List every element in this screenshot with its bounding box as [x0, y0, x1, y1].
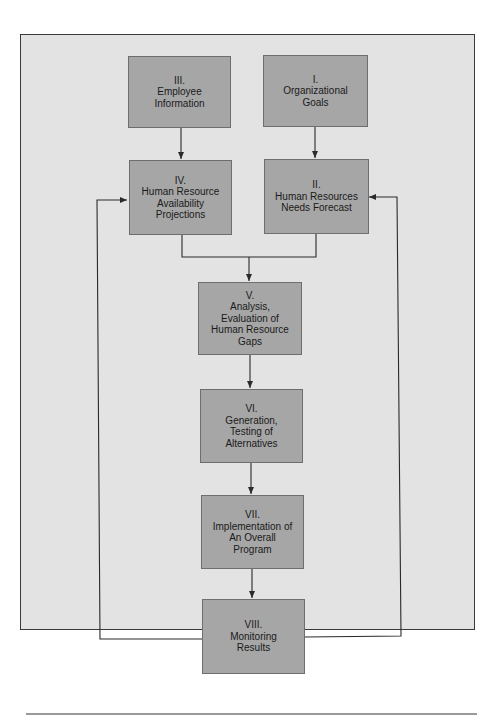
box-label-line: Evaluation of: [221, 313, 279, 325]
box-label-line: Monitoring: [230, 631, 277, 643]
box-label-line: Employee: [157, 86, 201, 98]
box-analysis-evaluation-gaps: V. Analysis, Evaluation of Human Resourc…: [198, 282, 302, 355]
box-numeral: V.: [246, 290, 255, 302]
box-generation-testing-alternatives: VI. Generation, Testing of Alternatives: [200, 389, 303, 463]
box-label-line: Human Resource: [142, 186, 220, 198]
box-label-line: Generation,: [225, 415, 277, 427]
box-numeral: IV.: [175, 175, 186, 187]
box-label-line: Gaps: [238, 336, 262, 348]
box-label-line: Needs Forecast: [281, 202, 352, 214]
box-label-line: Goals: [302, 97, 328, 109]
box-label-line: Implementation of: [213, 521, 293, 533]
box-label-line: Human Resources: [275, 191, 358, 203]
box-label-line: Analysis,: [230, 301, 270, 313]
box-label-line: An Overall: [229, 532, 276, 544]
box-hr-availability-projections: IV. Human Resource Availability Projecti…: [129, 160, 232, 235]
box-label-line: Information: [154, 98, 204, 110]
box-numeral: VII.: [245, 509, 260, 521]
box-label-line: Results: [237, 642, 270, 654]
box-organizational-goals: I. Organizational Goals: [263, 55, 368, 127]
box-numeral: VI.: [245, 403, 257, 415]
box-numeral: III.: [174, 75, 185, 87]
box-label-line: Program: [233, 544, 271, 556]
box-numeral: II.: [312, 179, 320, 191]
box-employee-information: III. Employee Information: [128, 56, 231, 128]
box-numeral: I.: [313, 74, 319, 86]
box-label-line: Alternatives: [225, 438, 277, 450]
box-label-line: Testing of: [230, 426, 273, 438]
box-label-line: Projections: [156, 209, 205, 221]
box-implementation-overall-program: VII. Implementation of An Overall Progra…: [201, 495, 304, 569]
box-monitoring-results: VIII. Monitoring Results: [202, 599, 305, 674]
box-hr-needs-forecast: II. Human Resources Needs Forecast: [264, 159, 369, 234]
box-label-line: Availability: [157, 198, 204, 210]
box-label-line: Human Resource: [211, 324, 289, 336]
box-numeral: VIII.: [245, 619, 263, 631]
box-label-line: Organizational: [283, 85, 347, 97]
